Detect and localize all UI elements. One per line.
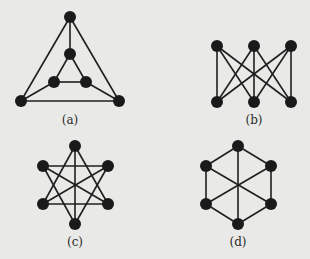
vertex-node — [232, 140, 244, 152]
vertex-node — [64, 48, 76, 60]
vertex-node — [102, 160, 114, 172]
vertex-node — [232, 218, 244, 230]
vertex-node — [211, 96, 223, 108]
vertex-node — [37, 160, 49, 172]
graph-c — [37, 140, 114, 230]
vertex-node — [102, 198, 114, 210]
vertex-node — [265, 160, 277, 172]
vertex-node — [80, 76, 92, 88]
vertex-node — [200, 160, 212, 172]
vertex-node — [64, 11, 76, 23]
vertex-node — [113, 95, 125, 107]
vertex-node — [248, 40, 260, 52]
graph-b-label: (b) — [245, 113, 262, 127]
graph-figure — [0, 0, 310, 259]
graph-b — [211, 40, 297, 108]
vertex-node — [48, 76, 60, 88]
edge — [21, 17, 70, 101]
vertex-node — [200, 198, 212, 210]
vertex-node — [69, 140, 81, 152]
graph-c-label: (c) — [67, 235, 83, 249]
edge — [70, 17, 119, 101]
graph-a-label: (a) — [62, 113, 79, 127]
vertex-node — [285, 96, 297, 108]
graph-d-label: (d) — [229, 235, 246, 249]
vertex-node — [248, 96, 260, 108]
vertex-node — [265, 198, 277, 210]
graph-a — [15, 11, 125, 107]
vertex-node — [37, 198, 49, 210]
vertex-node — [15, 95, 27, 107]
graph-d — [200, 140, 277, 230]
vertex-node — [285, 40, 297, 52]
vertex-node — [211, 40, 223, 52]
vertex-node — [69, 218, 81, 230]
